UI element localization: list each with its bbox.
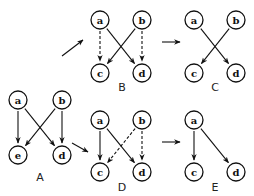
panel-label-E: E: [212, 181, 219, 194]
node-label: b: [139, 115, 146, 126]
node-label: c: [191, 68, 197, 79]
panel-label-B: B: [118, 81, 126, 94]
node-A-b: b: [53, 91, 71, 109]
transition-A-to-D-arrow: [72, 143, 88, 152]
transition-A-to-B-arrow: [62, 40, 83, 56]
node-C-b: b: [227, 11, 245, 29]
node-label: a: [97, 15, 104, 26]
node-B-a: a: [91, 11, 109, 29]
node-label: b: [139, 15, 146, 26]
node-B-b: b: [133, 11, 151, 29]
node-label: b: [59, 95, 66, 106]
node-label: d: [233, 68, 240, 79]
edges-layer: [18, 29, 229, 163]
node-B-d: d: [133, 64, 151, 82]
node-label: d: [233, 167, 240, 178]
node-label: c: [97, 167, 103, 178]
transitions-layer: [62, 40, 180, 152]
panel-label-C: C: [211, 81, 219, 94]
nodes-layer: abedabcdabcdabcdacd: [9, 11, 245, 181]
edge-E-a-d-arrow: [201, 129, 229, 163]
node-label: d: [59, 150, 66, 161]
node-label: a: [15, 95, 22, 106]
node-E-d: d: [227, 163, 245, 181]
node-D-a: a: [91, 111, 109, 129]
node-E-a: a: [185, 111, 203, 129]
node-label: e: [15, 150, 21, 161]
panel-label-A: A: [36, 171, 44, 184]
node-label: a: [191, 115, 198, 126]
node-B-c: c: [91, 64, 109, 82]
node-A-d: d: [53, 146, 71, 164]
node-label: a: [191, 15, 198, 26]
node-label: c: [191, 167, 197, 178]
node-label: c: [97, 68, 103, 79]
node-D-d: d: [133, 163, 151, 181]
node-C-c: c: [185, 64, 203, 82]
node-label: d: [139, 68, 146, 79]
graph-diagram: abedabcdabcdabcdacd ABCDE: [0, 0, 254, 196]
node-D-c: c: [91, 163, 109, 181]
node-C-a: a: [185, 11, 203, 29]
node-label: d: [139, 167, 146, 178]
node-label: a: [97, 115, 104, 126]
node-A-c: e: [9, 146, 27, 164]
node-label: b: [233, 15, 240, 26]
node-A-a: a: [9, 91, 27, 109]
node-E-c: c: [185, 163, 203, 181]
panel-label-D: D: [118, 181, 126, 194]
node-C-d: d: [227, 64, 245, 82]
node-D-b: b: [133, 111, 151, 129]
